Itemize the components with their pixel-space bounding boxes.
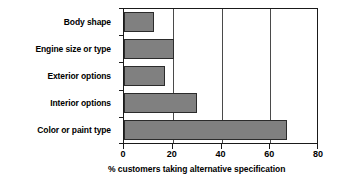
category-label-body-shape: Body shape xyxy=(0,17,114,27)
bar-body-shape xyxy=(124,12,154,32)
bar-row xyxy=(124,93,317,113)
bar-row xyxy=(124,12,317,32)
bar-chart-figure: Body shape Engine size or type Exterior … xyxy=(0,0,341,182)
bar-row xyxy=(124,66,317,86)
value-axis-tick-labels: 020406080 xyxy=(123,149,318,161)
category-label-engine-size-or-type: Engine size or type xyxy=(0,44,114,54)
tick-label-20: 20 xyxy=(167,149,177,160)
bar-color-or-paint-type xyxy=(124,120,287,140)
category-label-exterior-options: Exterior options xyxy=(0,71,114,81)
tick-label-80: 80 xyxy=(313,149,323,160)
bar-engine-size-or-type xyxy=(124,39,174,59)
tick-label-0: 0 xyxy=(120,149,125,160)
bar-series xyxy=(124,9,317,143)
bar-row xyxy=(124,39,317,59)
bar-exterior-options xyxy=(124,66,165,86)
category-label-interior-options: Interior options xyxy=(0,98,114,108)
tick-label-60: 60 xyxy=(264,149,274,160)
plot-area xyxy=(123,8,318,144)
x-axis-title: % customers taking alternative specifica… xyxy=(108,164,341,174)
category-axis-labels: Body shape Engine size or type Exterior … xyxy=(0,8,114,144)
tick-label-40: 40 xyxy=(215,149,225,160)
bar-interior-options xyxy=(124,93,197,113)
category-label-color-or-paint-type: Color or paint type xyxy=(0,125,114,135)
bar-row xyxy=(124,120,317,140)
